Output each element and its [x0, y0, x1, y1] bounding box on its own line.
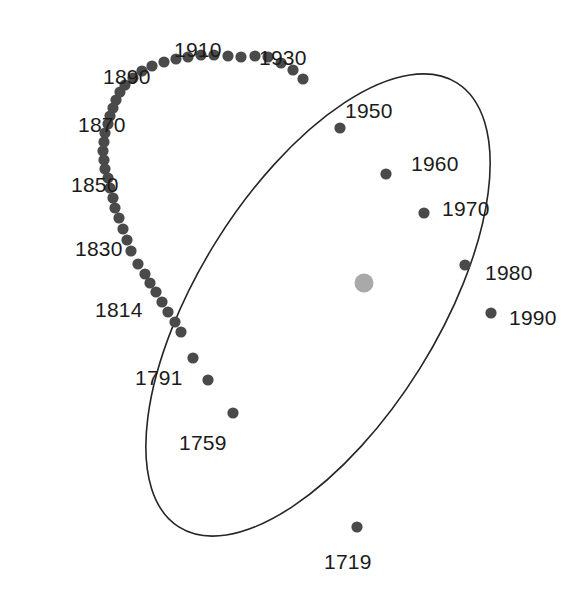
- orbit-point: [117, 223, 128, 234]
- orbit-point: [297, 73, 308, 84]
- orbit-point: [132, 258, 143, 269]
- orbit-point-1970: [418, 207, 429, 218]
- orbit-point-1759: [227, 407, 238, 418]
- orbit-point-1814: [156, 296, 167, 307]
- orbit-point-1950: [334, 122, 345, 133]
- orbit-point: [222, 50, 233, 61]
- year-label-1759: 1759: [179, 432, 227, 453]
- orbit-canvas: [0, 0, 587, 597]
- year-label-1850: 1850: [71, 174, 119, 195]
- orbit-point: [113, 212, 124, 223]
- year-label-1980: 1980: [485, 262, 533, 283]
- year-label-1719: 1719: [324, 551, 372, 572]
- orbit-point-1980: [459, 259, 470, 270]
- orbit-point: [202, 374, 213, 385]
- orbit-point: [169, 316, 180, 327]
- orbit-point-1791: [187, 352, 198, 363]
- year-label-1830: 1830: [75, 238, 123, 259]
- orbit-position-markers: [97, 49, 496, 532]
- orbit-point: [162, 306, 173, 317]
- year-label-1814: 1814: [95, 299, 143, 320]
- orbit-point: [109, 202, 120, 213]
- year-label-1890: 1890: [103, 66, 151, 87]
- year-label-1960: 1960: [411, 153, 459, 174]
- orbit-point: [235, 51, 246, 62]
- year-label-1870: 1870: [78, 114, 126, 135]
- orbit-point: [158, 56, 169, 67]
- orbit-point-1960: [380, 168, 391, 179]
- orbit-point-1990: [485, 307, 496, 318]
- orbit-point: [150, 286, 161, 297]
- orbit-point: [175, 326, 186, 337]
- year-label-1791: 1791: [135, 367, 183, 388]
- year-label-1970: 1970: [442, 198, 490, 219]
- orbit-point-1719: [351, 521, 362, 532]
- orbital-diagram: 1910193018901950187019601850197018301980…: [0, 0, 587, 597]
- year-label-1930: 1930: [259, 47, 307, 68]
- year-label-1990: 1990: [509, 307, 557, 328]
- orbit-path-ellipse: [77, 19, 558, 591]
- year-label-1910: 1910: [174, 39, 222, 60]
- orbit-point-1830: [121, 234, 132, 245]
- sun-icon: [355, 274, 374, 293]
- orbit-point: [125, 245, 136, 256]
- year-label-1950: 1950: [345, 100, 393, 121]
